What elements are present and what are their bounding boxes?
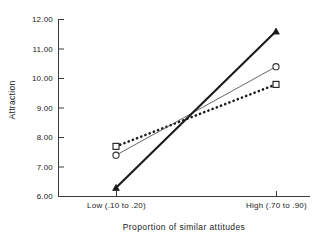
attraction-similarity-line-chart: 12.00 11.00 10.00 9.00 8.00 7.00 6.00 Lo… [0,0,329,241]
x-tick-label-high: High (.70 to .90) [226,201,327,210]
x-axis-ticks [117,191,277,197]
y-tick-label-8: 8.00 [19,133,53,142]
marker-square-low [113,143,119,149]
y-tick-label-10: 10.00 [19,74,53,83]
series-square-line-visible [116,84,276,146]
y-tick-label-7: 7.00 [19,163,53,172]
series-triangle-line [116,31,276,187]
marker-triangle-high [273,28,280,34]
y-axis-title: Attraction [7,65,17,135]
marker-circle-low [113,152,119,158]
marker-circle-high [273,64,279,70]
x-tick-label-low: Low (.10 to .20) [66,201,167,210]
marker-square-high [273,81,279,87]
series-circle-line [116,67,276,156]
y-tick-label-9: 9.00 [19,104,53,113]
y-tick-label-6: 6.00 [19,192,53,201]
y-tick-label-11: 11.00 [19,45,53,54]
y-tick-label-12: 12.00 [19,15,53,24]
y-axis-ticks [59,20,65,197]
x-axis-title: Proportion of similar attitudes [58,222,310,232]
